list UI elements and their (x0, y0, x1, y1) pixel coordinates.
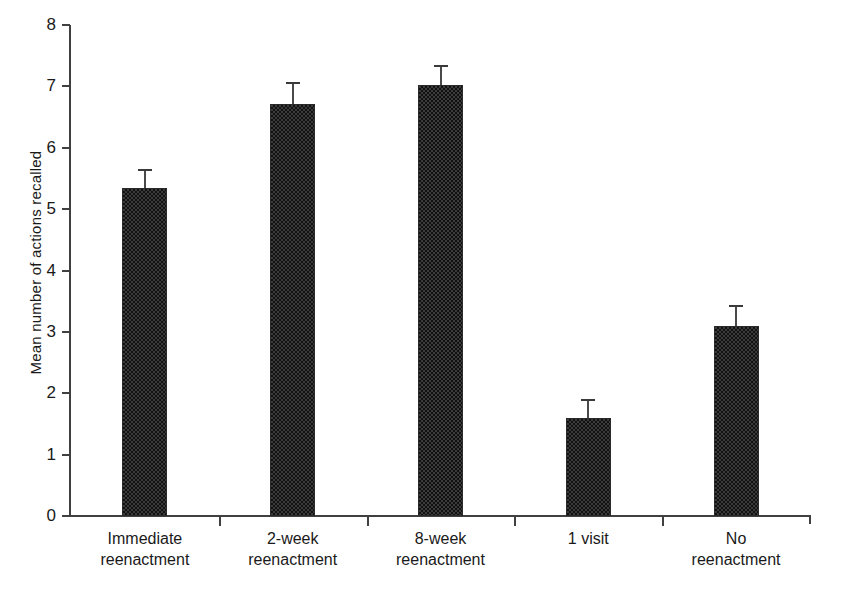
y-tick-1 (62, 454, 70, 456)
y-tick-7 (62, 85, 70, 87)
x-axis-endcap-tick (809, 515, 811, 524)
category-label-line-1: Immediate (71, 528, 219, 549)
bar-3 (418, 85, 463, 516)
error-bar-stem-3 (440, 65, 442, 85)
y-tick-label-8: 8 (28, 16, 56, 33)
y-tick-3 (62, 331, 70, 333)
x-tick-4 (662, 517, 664, 526)
bar-chart: Mean number of actions recalled 01234567… (0, 0, 843, 597)
y-tick-8 (62, 24, 70, 26)
y-tick-5 (62, 208, 70, 210)
y-tick-label-3: 3 (28, 323, 56, 340)
x-tick-1 (219, 517, 221, 526)
y-tick-label-0: 0 (28, 507, 56, 524)
error-bar-stem-1 (144, 169, 146, 188)
category-label-1: Immediatereenactment (71, 528, 219, 570)
error-bar-cap-3 (434, 65, 448, 67)
category-label-line-2: reenactment (662, 549, 810, 570)
y-tick-label-7: 7 (28, 77, 56, 94)
y-tick-0 (62, 515, 70, 517)
category-label-4: 1 visit (514, 528, 662, 549)
y-tick-4 (62, 270, 70, 272)
y-tick-label-5: 5 (28, 200, 56, 217)
error-bar-cap-2 (286, 82, 300, 84)
category-label-line-1: No (662, 528, 810, 549)
category-label-3: 8-weekreenactment (367, 528, 515, 570)
y-tick-6 (62, 147, 70, 149)
error-bar-stem-5 (735, 305, 737, 325)
error-bar-cap-5 (729, 305, 743, 307)
bar-2 (270, 104, 315, 516)
error-bar-cap-4 (581, 399, 595, 401)
x-tick-3 (514, 517, 516, 526)
error-bar-cap-1 (138, 169, 152, 171)
y-tick-2 (62, 392, 70, 394)
category-label-line-1: 8-week (367, 528, 515, 549)
category-label-line-2: reenactment (71, 549, 219, 570)
bar-5 (714, 326, 759, 516)
y-tick-label-1: 1 (28, 446, 56, 463)
category-label-line-1: 2-week (219, 528, 367, 549)
category-label-5: Noreenactment (662, 528, 810, 570)
y-tick-label-4: 4 (28, 262, 56, 279)
bar-4 (566, 418, 611, 516)
y-tick-label-2: 2 (28, 384, 56, 401)
error-bar-stem-2 (292, 82, 294, 104)
category-label-2: 2-weekreenactment (219, 528, 367, 570)
x-tick-2 (367, 517, 369, 526)
error-bar-stem-4 (587, 399, 589, 418)
y-tick-label-6: 6 (28, 139, 56, 156)
bar-1 (122, 188, 167, 516)
category-label-line-2: reenactment (219, 549, 367, 570)
category-label-line-1: 1 visit (514, 528, 662, 549)
category-label-line-2: reenactment (367, 549, 515, 570)
